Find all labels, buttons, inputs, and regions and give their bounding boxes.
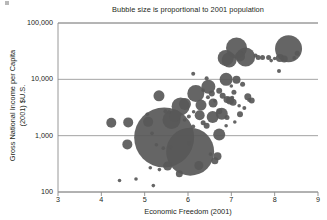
bubble-point — [194, 161, 203, 170]
bubble-chart: Bubble size is proportional to 2001 popu… — [0, 0, 327, 220]
bubble-point — [122, 139, 132, 149]
bubble-point — [209, 91, 215, 97]
bubble-point — [213, 99, 217, 103]
bubble-point — [206, 95, 210, 99]
bubble-point — [163, 161, 172, 170]
bubble-point — [187, 114, 191, 118]
bubble-point — [187, 142, 191, 146]
bubble-point — [196, 100, 207, 111]
bubble-point — [201, 88, 205, 92]
bubble-point — [242, 106, 246, 110]
bubble-point — [225, 115, 230, 120]
bubble-point — [106, 118, 116, 128]
bubble-point — [158, 168, 162, 172]
bubble-point — [166, 128, 214, 176]
bubble-point — [195, 110, 205, 120]
bubble-point — [169, 146, 173, 150]
bubble-point — [134, 177, 138, 181]
bubble-point — [145, 112, 149, 116]
bubble-point — [153, 90, 164, 101]
bubble-point — [222, 53, 237, 68]
bubble-point — [169, 110, 181, 122]
bubble-point — [149, 166, 153, 170]
bubble-point — [254, 53, 258, 57]
bubble-point — [237, 111, 243, 117]
bubble-point — [230, 96, 234, 100]
bubble-point — [191, 72, 195, 76]
bubble-point — [281, 55, 288, 62]
bubble-point — [220, 73, 233, 86]
bubble-point — [230, 99, 237, 106]
bubble-point — [192, 110, 196, 114]
bubble-point — [277, 69, 281, 73]
bubble-point — [155, 143, 159, 147]
bubble-point — [237, 104, 241, 108]
bubble-point — [273, 57, 277, 61]
bubble-point — [152, 184, 156, 188]
bubble-point — [233, 120, 237, 124]
bubble-point — [233, 76, 241, 84]
plot-area — [0, 0, 327, 220]
bubble-point — [260, 55, 265, 60]
bubble-point — [240, 82, 245, 87]
bubble-point — [191, 125, 195, 129]
bubble-point — [292, 56, 296, 60]
bubble-point — [216, 88, 222, 94]
bubble-point — [123, 117, 133, 127]
bubble-point — [220, 93, 226, 99]
bubble-point — [167, 110, 171, 114]
bubble-point — [216, 108, 222, 114]
bubble-point — [269, 59, 273, 63]
bubble-point — [176, 170, 183, 177]
bubble-point — [118, 179, 122, 183]
bubble-point — [211, 157, 218, 164]
bubble-point — [183, 118, 187, 122]
bubble-point — [201, 120, 206, 125]
bubble-point — [247, 98, 251, 102]
bubble-point — [205, 76, 209, 80]
bubble-point — [143, 117, 153, 127]
bubble-point — [231, 90, 236, 95]
bubble-point — [224, 124, 228, 128]
bubble-point — [230, 84, 234, 88]
bubble-point — [295, 51, 300, 56]
bubble-point — [213, 128, 225, 140]
bubble-point — [235, 51, 245, 61]
bubble-point — [209, 152, 213, 156]
bubble-point — [162, 146, 166, 150]
bubble-point — [150, 132, 154, 136]
bubble-point — [179, 98, 191, 110]
bubble-point — [163, 109, 167, 113]
